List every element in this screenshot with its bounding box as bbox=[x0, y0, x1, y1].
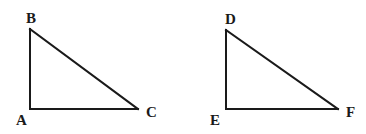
triangle-abc: A B C bbox=[16, 10, 157, 128]
triangles-diagram: A B C D E F bbox=[0, 0, 366, 134]
vertex-label-b: B bbox=[26, 10, 36, 26]
vertex-label-e: E bbox=[210, 112, 220, 128]
triangle-def: D E F bbox=[210, 11, 355, 128]
edge-df bbox=[226, 30, 338, 109]
vertex-label-d: D bbox=[225, 11, 236, 27]
vertex-label-f: F bbox=[346, 104, 355, 120]
vertex-label-a: A bbox=[16, 112, 27, 128]
vertex-label-c: C bbox=[146, 104, 157, 120]
edge-bc bbox=[30, 29, 138, 109]
